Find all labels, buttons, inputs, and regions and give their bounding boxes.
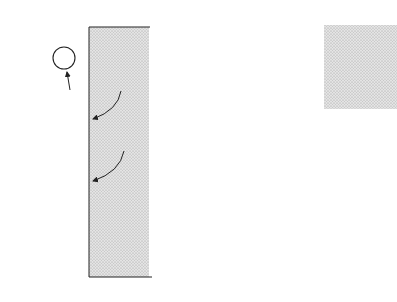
cathode-diagram: [0, 0, 397, 302]
cathode-block-a: [89, 27, 149, 277]
h2-molecule: [53, 47, 75, 69]
panel-a: [53, 27, 152, 277]
panel-b: [324, 25, 397, 109]
h2-release-arrow: [67, 72, 70, 90]
